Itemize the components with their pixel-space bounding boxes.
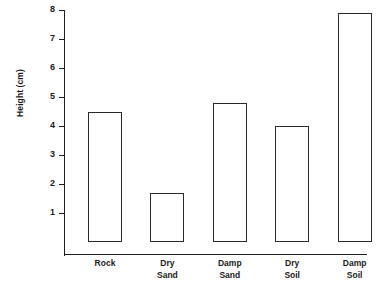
bar-dry-soil [275,126,309,242]
x-label-line: Sand [137,270,197,282]
x-label-line: Damp [325,258,383,270]
y-tick-2: 2 [59,184,64,185]
y-tick-5: 5 [59,97,64,98]
x-axis-line [64,254,367,255]
bar-dry-sand [150,193,184,242]
x-label-line: Soil [262,270,322,282]
bar-chart: Height (cm) 87654321 RockDrySandDampSand… [0,0,383,300]
bar-rock [88,112,122,243]
y-tick-label-4: 4 [50,120,55,131]
x-label-dry-soil: DrySoil [262,258,322,281]
y-tick-6: 6 [59,68,64,69]
x-label-damp-sand: DampSand [200,258,260,281]
y-tick-label-8: 8 [50,4,55,15]
y-tick-1: 1 [59,213,64,214]
y-tick-label-5: 5 [50,91,55,102]
bar-damp-soil [338,13,372,242]
y-axis-line [64,10,65,256]
y-axis-title: Height (cm) [15,33,25,153]
y-tick-8: 8 [59,10,64,11]
bar-damp-sand [213,103,247,242]
x-label-damp-soil: DampSoil [325,258,383,281]
x-label-rock: Rock [75,258,135,270]
x-label-line: Dry [137,258,197,270]
plot-area: 87654321 [64,8,376,255]
y-tick-label-6: 6 [50,62,55,73]
x-label-line: Dry [262,258,322,270]
y-tick-label-7: 7 [50,33,55,44]
x-label-line: Sand [200,270,260,282]
x-label-line: Soil [325,270,383,282]
y-tick-label-3: 3 [50,149,55,160]
x-label-line: Rock [75,258,135,270]
x-label-dry-sand: DrySand [137,258,197,281]
y-tick-7: 7 [59,39,64,40]
y-tick-3: 3 [59,155,64,156]
y-tick-label-1: 1 [50,207,55,218]
y-tick-4: 4 [59,126,64,127]
y-tick-label-2: 2 [50,178,55,189]
x-label-line: Damp [200,258,260,270]
